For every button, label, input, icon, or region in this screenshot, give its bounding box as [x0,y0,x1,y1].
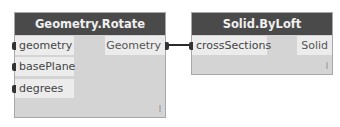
input-port-geometry[interactable]: geometry [15,36,74,55]
lacing-indicator: I [326,62,328,71]
lacing-indicator: I [159,105,161,114]
input-port-degrees[interactable]: degrees [15,79,74,98]
port-connector-icon[interactable] [12,63,16,71]
output-port-geometry[interactable]: Geometry [105,36,165,55]
port-connector-icon[interactable] [12,42,16,50]
port-label: crossSections [196,39,271,52]
connection-wire[interactable] [168,44,190,46]
input-port-baseplane[interactable]: basePlane [15,57,74,76]
port-label: degrees [19,82,63,95]
port-label: Geometry [106,39,161,52]
input-port-crosssections[interactable]: crossSections [192,36,267,55]
node-solid-byloft[interactable]: Solid.ByLoft crossSections Solid I [191,12,333,75]
output-port-solid[interactable]: Solid [297,36,332,55]
node-geometry-rotate[interactable]: Geometry.Rotate geometry basePlane degre… [14,12,166,118]
port-label: basePlane [19,60,75,73]
port-label: geometry [19,39,72,52]
port-connector-icon[interactable] [12,85,16,93]
node-title[interactable]: Geometry.Rotate [15,13,165,35]
port-connector-icon[interactable] [189,42,193,50]
port-label: Solid [301,39,328,52]
node-title[interactable]: Solid.ByLoft [192,13,332,35]
